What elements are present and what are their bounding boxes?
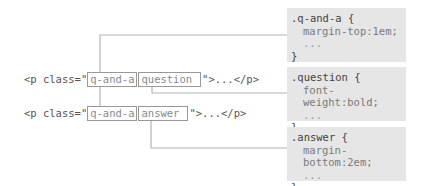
css-selector: .question { [291,71,402,84]
html-suffix: ">...</p> [202,72,259,87]
connector-q-and-a [100,35,287,106]
class-token-answer: answer [138,106,188,121]
connector-answer [151,121,287,148]
css-ellipsis: ... [291,37,402,50]
css-close-brace: } [291,181,402,186]
html-suffix: ">...</p> [189,106,246,121]
css-rule-question: .question { font-weight:bold; ... } [287,67,406,121]
html-line-answer: <p class="q-and-aanswer">...</p> [24,106,246,121]
css-close-brace: } [291,50,402,63]
css-ellipsis: ... [291,169,402,182]
class-token-question: question [138,72,201,87]
css-rule-answer: .answer { margin-bottom:2em; ... } [287,127,406,181]
class-token-q-and-a: q-and-a [87,106,137,121]
css-rule-q-and-a: .q-and-a { margin-top:1em; ... } [287,8,406,62]
html-prefix: <p class=" [24,72,87,87]
css-property: margin-top:1em; [291,25,402,38]
class-token-q-and-a: q-and-a [87,72,137,87]
css-property: font-weight:bold; [291,84,402,109]
connector-question [152,87,287,93]
css-selector: .answer { [291,131,402,144]
html-prefix: <p class=" [24,106,87,121]
html-line-question: <p class="q-and-aquestion">...</p> [24,72,259,87]
css-property: margin-bottom:2em; [291,144,402,169]
css-ellipsis: ... [291,109,402,122]
css-selector: .q-and-a { [291,12,402,25]
